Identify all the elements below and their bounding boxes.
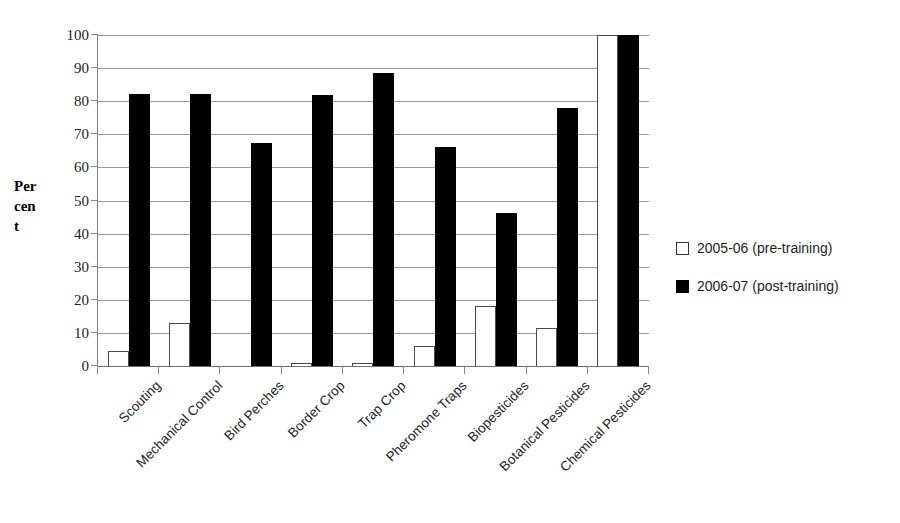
legend-label-pre-training: 2005-06 (pre-training) bbox=[697, 240, 832, 256]
y-tick-mark-10 bbox=[91, 332, 98, 333]
x-axis-label-border-crop: Border Crop bbox=[285, 378, 348, 441]
y-axis-title: Per cen t bbox=[14, 176, 58, 236]
bar-pheromone-traps-series-2[interactable] bbox=[435, 147, 456, 366]
y-tick-label-10: 10 bbox=[74, 324, 89, 341]
x-axis-label-bird-perches: Bird Perches bbox=[221, 378, 286, 443]
bar-chart-figure: Per cen t 0102030405060708090100 Scoutin… bbox=[0, 0, 900, 523]
y-tick-mark-20 bbox=[91, 299, 98, 300]
y-tick-label-90: 90 bbox=[74, 60, 89, 77]
bar-bird-perches-series-2[interactable] bbox=[251, 143, 272, 366]
y-axis-title-line-2: cen bbox=[14, 196, 58, 216]
bar-group-scouting[interactable] bbox=[98, 35, 159, 366]
y-axis-title-line-3: t bbox=[14, 216, 58, 236]
legend-swatch-white-square-icon bbox=[676, 242, 689, 255]
bars-layer bbox=[98, 35, 649, 366]
x-axis-label-trap-crop: Trap Crop bbox=[356, 378, 409, 431]
bar-mechanical-control-series-1[interactable] bbox=[169, 323, 190, 366]
bar-group-bird-perches[interactable] bbox=[220, 35, 281, 366]
y-tick-label-30: 30 bbox=[74, 258, 89, 275]
bar-group-biopesticides[interactable] bbox=[465, 35, 526, 366]
bar-group-chemical-pesticides[interactable] bbox=[588, 35, 649, 366]
y-tick-mark-50 bbox=[91, 200, 98, 201]
y-tick-mark-40 bbox=[91, 233, 98, 234]
legend-item-post-training: 2006-07 (post-training) bbox=[676, 278, 891, 294]
bar-botanical-pesticides-series-2[interactable] bbox=[557, 108, 578, 366]
y-tick-label-40: 40 bbox=[74, 225, 89, 242]
bar-chemical-pesticides-series-2[interactable] bbox=[618, 35, 639, 366]
y-tick-label-80: 80 bbox=[74, 93, 89, 110]
bar-group-botanical-pesticides[interactable] bbox=[527, 35, 588, 366]
y-tick-mark-30 bbox=[91, 266, 98, 267]
bar-biopesticides-series-2[interactable] bbox=[496, 213, 517, 366]
y-tick-mark-100 bbox=[91, 34, 98, 35]
y-axis-title-line-1: Per bbox=[14, 176, 58, 196]
y-tick-label-100: 100 bbox=[67, 27, 90, 44]
bar-group-mechanical-control[interactable] bbox=[159, 35, 220, 366]
bar-mechanical-control-series-2[interactable] bbox=[190, 94, 211, 366]
bar-group-trap-crop[interactable] bbox=[343, 35, 404, 366]
chart-legend: 2005-06 (pre-training) 2006-07 (post-tra… bbox=[676, 240, 891, 316]
bar-botanical-pesticides-series-1[interactable] bbox=[536, 328, 557, 366]
y-tick-mark-90 bbox=[91, 67, 98, 68]
legend-label-post-training: 2006-07 (post-training) bbox=[697, 278, 839, 294]
x-axis-labels: ScoutingMechanical ControlBird PerchesBo… bbox=[97, 366, 648, 516]
y-tick-mark-60 bbox=[91, 166, 98, 167]
legend-swatch-black-square-icon bbox=[676, 280, 689, 293]
y-tick-mark-80 bbox=[91, 100, 98, 101]
bar-group-border-crop[interactable] bbox=[282, 35, 343, 366]
x-axis-label-biopesticides: Biopesticides bbox=[464, 378, 531, 445]
bar-border-crop-series-2[interactable] bbox=[312, 95, 333, 366]
bar-biopesticides-series-1[interactable] bbox=[475, 306, 496, 366]
bar-group-pheromone-traps[interactable] bbox=[404, 35, 465, 366]
y-tick-label-70: 70 bbox=[74, 126, 89, 143]
y-tick-label-60: 60 bbox=[74, 159, 89, 176]
bar-scouting-series-2[interactable] bbox=[129, 94, 150, 366]
y-tick-label-0: 0 bbox=[82, 358, 90, 375]
y-tick-label-50: 50 bbox=[74, 192, 89, 209]
x-tick-mark-9 bbox=[648, 366, 649, 374]
bar-trap-crop-series-2[interactable] bbox=[373, 73, 394, 366]
x-axis-label-scouting: Scouting bbox=[116, 378, 164, 426]
plot-area: 0102030405060708090100 bbox=[97, 35, 649, 366]
bar-chemical-pesticides-series-1[interactable] bbox=[597, 35, 618, 366]
y-tick-label-20: 20 bbox=[74, 291, 89, 308]
y-tick-mark-70 bbox=[91, 133, 98, 134]
legend-item-pre-training: 2005-06 (pre-training) bbox=[676, 240, 891, 256]
bar-pheromone-traps-series-1[interactable] bbox=[414, 346, 435, 366]
bar-scouting-series-1[interactable] bbox=[108, 351, 129, 366]
